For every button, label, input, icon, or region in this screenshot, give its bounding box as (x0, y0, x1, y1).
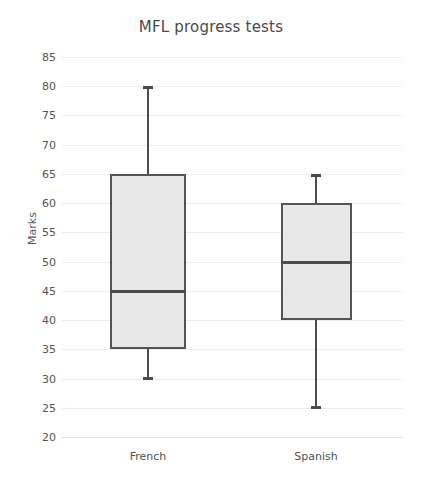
gridline (62, 437, 403, 438)
y-tick-label: 85 (4, 51, 56, 64)
lower-whisker-cap (311, 406, 321, 409)
boxplot-chart: MFL progress tests Marks 858075706560555… (0, 0, 422, 487)
median-line (281, 261, 352, 264)
chart-title: MFL progress tests (0, 18, 422, 36)
y-tick-label: 80 (4, 80, 56, 93)
x-tick-label: Spanish (294, 450, 337, 463)
plot-area (62, 57, 403, 437)
y-tick-label: 65 (4, 167, 56, 180)
y-tick-label: 20 (4, 431, 56, 444)
y-tick-label: 55 (4, 226, 56, 239)
y-tick-label: 50 (4, 255, 56, 268)
y-tick-label: 70 (4, 138, 56, 151)
lower-whisker (315, 320, 317, 408)
y-tick-label: 60 (4, 197, 56, 210)
y-axis-tick-labels: 8580757065605550454035302520 (0, 57, 56, 437)
upper-whisker (315, 174, 317, 203)
y-tick-label: 75 (4, 109, 56, 122)
y-tick-label: 25 (4, 401, 56, 414)
boxplot-series[interactable] (62, 57, 403, 437)
upper-whisker-cap (311, 174, 321, 177)
x-tick-label: French (130, 450, 167, 463)
y-tick-label: 45 (4, 284, 56, 297)
y-tick-label: 35 (4, 343, 56, 356)
y-tick-label: 40 (4, 314, 56, 327)
y-tick-label: 30 (4, 372, 56, 385)
